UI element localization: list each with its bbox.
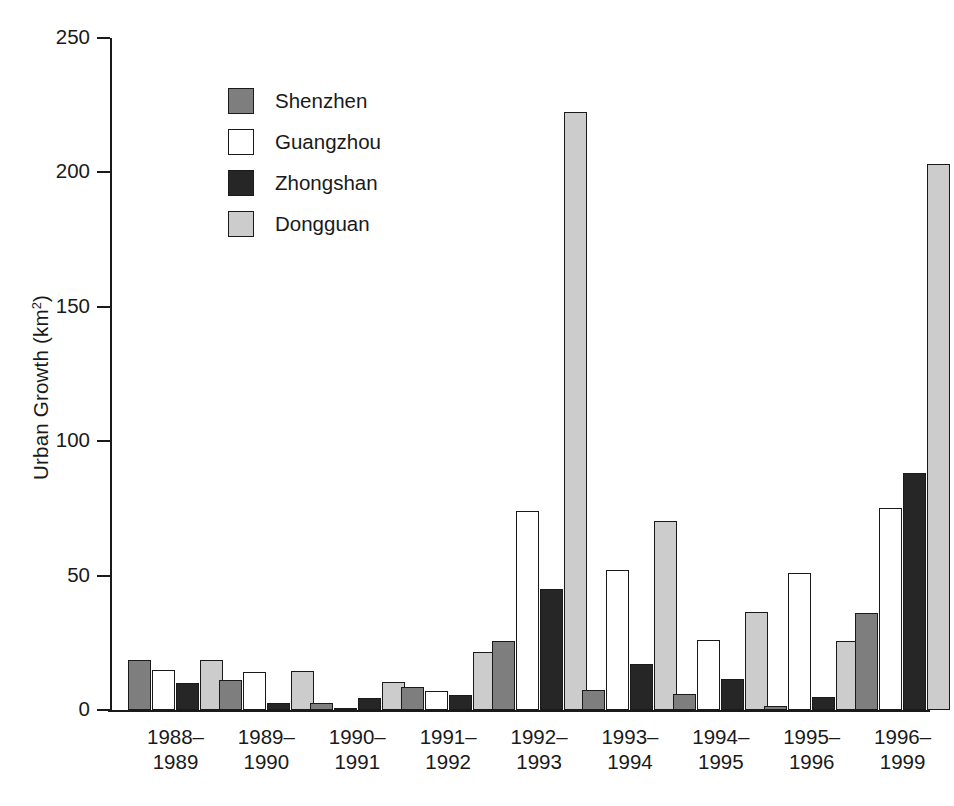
y-axis-title-exponent: 2 <box>29 302 44 309</box>
y-axis-title-base: Urban Growth (km <box>29 309 52 480</box>
bar-shenzhen <box>673 694 696 710</box>
legend-item-zhongshan: Zhongshan <box>228 162 381 203</box>
y-axis-tick: 200 <box>97 171 110 173</box>
bar-shenzhen <box>128 660 151 710</box>
y-axis-tick-label: 100 <box>56 428 90 452</box>
legend-item-shenzhen: Shenzhen <box>228 80 381 121</box>
bar-shenzhen <box>310 703 333 710</box>
bar-zhongshan <box>903 473 926 710</box>
bar-group <box>764 38 859 710</box>
legend-swatch-icon <box>228 129 254 155</box>
bar-zhongshan <box>721 679 744 710</box>
bar-zhongshan <box>630 664 653 710</box>
bar-zhongshan <box>540 589 563 710</box>
bar-shenzhen <box>582 690 605 710</box>
bar-group <box>855 38 950 710</box>
y-axis-tick-label: 50 <box>67 563 90 587</box>
bar-shenzhen <box>219 680 242 710</box>
bar-guangzhou <box>516 511 539 710</box>
bar-group <box>582 38 677 710</box>
bar-group <box>128 38 223 710</box>
legend-swatch-icon <box>228 88 254 114</box>
bar-group <box>401 38 496 710</box>
bar-guangzhou <box>879 508 902 710</box>
y-axis-tick: 0 <box>97 709 110 711</box>
y-axis-tick-label: 0 <box>79 697 90 721</box>
legend-item-dongguan: Dongguan <box>228 203 381 244</box>
bar-guangzhou <box>243 672 266 710</box>
bar-guangzhou <box>788 573 811 710</box>
y-axis-line <box>110 38 112 712</box>
bar-dongguan <box>927 164 950 710</box>
x-axis-label: 1996– 1999 <box>833 724 954 774</box>
bar-shenzhen <box>855 613 878 710</box>
bar-shenzhen <box>401 687 424 710</box>
legend-swatch-icon <box>228 211 254 237</box>
y-axis-tick: 100 <box>97 440 110 442</box>
bar-zhongshan <box>358 698 381 710</box>
legend-label: Shenzhen <box>275 89 367 113</box>
legend-label: Dongguan <box>275 212 370 236</box>
y-axis-tick: 150 <box>97 306 110 308</box>
y-axis-title: Urban Growth (km2) <box>29 127 54 647</box>
bar-guangzhou <box>152 670 175 710</box>
bar-group <box>492 38 587 710</box>
y-axis-title-tail: ) <box>29 295 52 302</box>
legend: ShenzhenGuangzhouZhongshanDongguan <box>228 80 381 244</box>
y-axis-tick-label: 250 <box>56 25 90 49</box>
bar-group <box>673 38 768 710</box>
bar-guangzhou <box>606 570 629 710</box>
legend-label: Zhongshan <box>275 171 378 195</box>
bar-guangzhou <box>425 691 448 710</box>
bar-zhongshan <box>267 703 290 710</box>
bar-zhongshan <box>176 683 199 710</box>
bar-zhongshan <box>449 695 472 710</box>
legend-label: Guangzhou <box>275 130 381 154</box>
x-axis-line <box>108 710 930 712</box>
legend-swatch-icon <box>228 170 254 196</box>
y-axis-tick-label: 200 <box>56 159 90 183</box>
bar-shenzhen <box>492 641 515 710</box>
y-axis-tick: 50 <box>97 575 110 577</box>
bar-guangzhou <box>334 708 357 711</box>
bar-guangzhou <box>697 640 720 710</box>
y-axis-tick-label: 150 <box>56 294 90 318</box>
bar-zhongshan <box>812 697 835 710</box>
legend-item-guangzhou: Guangzhou <box>228 121 381 162</box>
y-axis-tick: 250 <box>97 37 110 39</box>
bar-shenzhen <box>764 706 787 710</box>
